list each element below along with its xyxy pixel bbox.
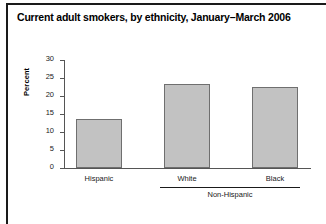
y-tick-15: 15 bbox=[60, 114, 64, 115]
x-label-black: Black bbox=[252, 174, 298, 183]
y-tick-30: 30 bbox=[60, 60, 64, 61]
y-tick-label-5: 5 bbox=[50, 144, 54, 153]
figure-frame-top-rule bbox=[6, 3, 326, 5]
bar-white bbox=[164, 84, 210, 168]
y-tick-label-0: 0 bbox=[50, 162, 54, 171]
group-bracket-rule bbox=[160, 187, 300, 188]
y-tick-25: 25 bbox=[60, 78, 64, 79]
y-tick-label-10: 10 bbox=[46, 126, 54, 135]
plot-area: 0 5 10 15 20 25 30 Hispanic White Black … bbox=[64, 60, 311, 169]
x-label-hispanic: Hispanic bbox=[76, 174, 122, 183]
bar-black bbox=[252, 87, 298, 168]
x-axis-line bbox=[64, 168, 311, 169]
group-bracket-label: Non-Hispanic bbox=[160, 190, 300, 199]
y-tick-label-15: 15 bbox=[46, 108, 54, 117]
y-tick-20: 20 bbox=[60, 96, 64, 97]
y-tick-10: 10 bbox=[60, 132, 64, 133]
y-axis-line bbox=[64, 60, 65, 169]
y-tick-label-25: 25 bbox=[46, 72, 54, 81]
y-tick-0: 0 bbox=[60, 168, 64, 169]
y-tick-label-20: 20 bbox=[46, 90, 54, 99]
chart-title: Current adult smokers, by ethnicity, Jan… bbox=[17, 11, 307, 23]
bar-hispanic bbox=[76, 119, 122, 168]
y-tick-5: 5 bbox=[60, 150, 64, 151]
figure-frame-left-rule bbox=[6, 3, 8, 224]
x-label-white: White bbox=[164, 174, 210, 183]
y-tick-label-30: 30 bbox=[46, 54, 54, 63]
y-axis-title: Percent bbox=[22, 68, 31, 96]
